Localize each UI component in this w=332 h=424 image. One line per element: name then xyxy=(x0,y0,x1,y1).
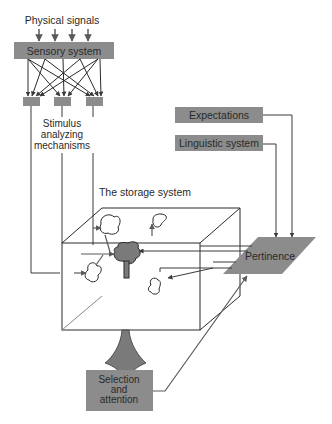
context-to-pertinence-arrows xyxy=(263,115,292,237)
memory-blob-bottom-right xyxy=(148,278,160,294)
linguistic-system-label: Linguistic system xyxy=(179,137,259,149)
expectations-label: Expectations xyxy=(189,109,249,121)
pertinence-label: Pertinence xyxy=(245,250,295,262)
svg-text:Stimulus: Stimulus xyxy=(43,118,81,129)
svg-text:mechanisms: mechanisms xyxy=(34,140,90,151)
stimulus-analyzer-boxes xyxy=(23,97,103,106)
sensory-crossing-arrows xyxy=(28,59,101,96)
storage-system-label: The storage system xyxy=(99,186,191,198)
memory-blob-top-right xyxy=(153,214,167,227)
memory-blob-left xyxy=(85,263,101,282)
analyzer-box-2 xyxy=(54,97,71,106)
stimulus-analyzing-label: Stimulus analyzing mechanisms xyxy=(33,117,93,153)
pertinence-node: Pertinence xyxy=(223,237,316,274)
memory-blob-top-left xyxy=(100,215,120,234)
attention-model-diagram: Physical signals Sensory system Stimulus… xyxy=(0,0,332,424)
sensory-system-label: Sensory system xyxy=(27,45,102,57)
linguistic-system-box: Linguistic system xyxy=(175,135,263,151)
analyzer-box-3 xyxy=(86,97,103,106)
physical-signal-arrows xyxy=(39,29,88,41)
selection-attention-box: Selection and attention xyxy=(86,370,153,411)
svg-text:attention: attention xyxy=(100,394,138,405)
physical-signals-label: Physical signals xyxy=(25,14,100,26)
analyzer-box-1 xyxy=(23,97,40,106)
svg-text:analyzing: analyzing xyxy=(41,129,83,140)
expectations-box: Expectations xyxy=(175,107,263,123)
sensory-system-box: Sensory system xyxy=(14,42,114,59)
